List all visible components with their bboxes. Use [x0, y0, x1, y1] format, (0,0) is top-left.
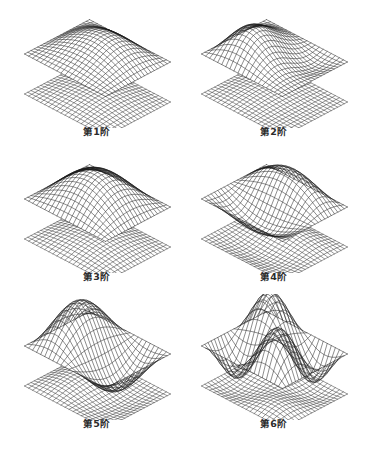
surface-plot-3	[4, 147, 189, 273]
surface-plot-4	[181, 147, 366, 273]
mode-panel-2: 第2阶	[181, 2, 366, 152]
mode-panel-5: 第5阶	[4, 294, 189, 444]
mode-panel-1: 第1阶	[4, 2, 189, 152]
mode-panel-4: 第4阶	[181, 147, 366, 297]
mode-shape-figure: 第1阶 第2阶 第3阶 第4阶 第5阶 第6阶	[0, 0, 370, 449]
surface-plot-1	[4, 2, 189, 128]
occlusion-mask	[202, 20, 348, 97]
surface-plot-6	[181, 294, 366, 420]
mode-panel-3: 第3阶	[4, 147, 189, 297]
panel-caption-6: 第6阶	[181, 418, 366, 430]
panel-caption-1: 第1阶	[4, 126, 189, 138]
panel-caption-3: 第3阶	[4, 271, 189, 283]
panel-caption-2: 第2阶	[181, 126, 366, 138]
mode-panel-6: 第6阶	[181, 294, 366, 444]
panel-caption-5: 第5阶	[4, 418, 189, 430]
panel-caption-4: 第4阶	[181, 271, 366, 283]
surface-plot-2	[181, 2, 366, 128]
surface-plot-5	[4, 294, 189, 420]
